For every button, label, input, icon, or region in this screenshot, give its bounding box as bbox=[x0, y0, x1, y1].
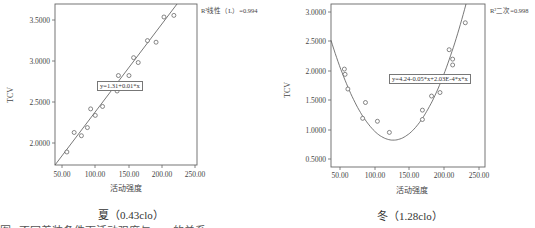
data-point bbox=[375, 119, 379, 123]
data-point bbox=[346, 87, 350, 91]
y-tick-label: 0.5000 bbox=[305, 155, 326, 164]
y-tick-label: 2.0000 bbox=[29, 139, 50, 148]
winter-equation-label: y=4.24-0.05*x+2.03E-4*x*x bbox=[389, 74, 471, 84]
winter-r2-label: R²二次=0.998 bbox=[490, 5, 529, 15]
data-point bbox=[132, 56, 136, 60]
x-tick-label: 250.00 bbox=[185, 170, 206, 179]
data-point bbox=[363, 101, 367, 105]
x-tick-label: 150.00 bbox=[119, 170, 140, 179]
y-tick-label: 3.5000 bbox=[29, 16, 50, 25]
x-tick-label: 100.00 bbox=[85, 170, 106, 179]
x-tick-label: 50.00 bbox=[332, 171, 349, 180]
data-point bbox=[72, 130, 76, 134]
summer-plot-svg: 3.5000 3.0000 2.5000 2.0000 50.00 100.00… bbox=[0, 0, 265, 228]
data-point bbox=[342, 67, 346, 71]
data-point bbox=[451, 57, 455, 61]
x-tick-label: 250.00 bbox=[469, 171, 490, 180]
data-point bbox=[172, 13, 176, 17]
summer-y-axis-title: TCV bbox=[6, 87, 15, 103]
data-point bbox=[101, 104, 105, 108]
data-point bbox=[438, 91, 442, 95]
summer-r2-label: R²线性（L）=0.994 bbox=[201, 5, 258, 15]
y-tick-label: 3.0000 bbox=[29, 57, 50, 66]
y-tick-label: 2.0000 bbox=[305, 67, 326, 76]
figure-caption: 图1 不同着装条件下活动强度与TCV的关系 bbox=[0, 222, 206, 228]
winter-plot-svg: 3.0000 2.5000 2.0000 1.5000 1.0000 0.500… bbox=[265, 0, 535, 228]
data-point bbox=[154, 40, 158, 44]
x-tick-label: 100.00 bbox=[365, 171, 386, 180]
data-point bbox=[447, 48, 451, 52]
data-point bbox=[162, 15, 166, 19]
x-tick-label: 200.00 bbox=[434, 171, 455, 180]
winter-x-axis-title: 活动强度 bbox=[396, 185, 428, 195]
data-point bbox=[116, 74, 120, 78]
data-point bbox=[136, 61, 140, 65]
y-tick-label: 1.0000 bbox=[305, 126, 326, 135]
data-point bbox=[79, 134, 83, 138]
summer-x-axis-title: 活动强度 bbox=[110, 183, 142, 193]
data-point bbox=[127, 74, 131, 78]
data-point bbox=[361, 116, 365, 120]
data-point bbox=[420, 108, 424, 112]
x-tick-label: 50.00 bbox=[54, 170, 71, 179]
winter-fit-curve bbox=[331, 4, 466, 140]
data-point bbox=[463, 21, 467, 25]
winter-y-axis-title: TCV bbox=[283, 82, 292, 98]
data-point bbox=[65, 150, 69, 154]
y-tick-label: 3.0000 bbox=[305, 8, 326, 17]
data-point bbox=[145, 39, 149, 43]
data-point bbox=[343, 72, 347, 76]
summer-caption: 夏（0.43clo） bbox=[98, 206, 164, 222]
summer-equation-label: y=1.31+0.01*x bbox=[97, 81, 143, 91]
x-tick-label: 150.00 bbox=[399, 171, 420, 180]
winter-y-axis: 3.0000 2.5000 2.0000 1.5000 1.0000 0.500… bbox=[305, 8, 331, 164]
winter-x-axis: 50.00 100.00 150.00 200.00 250.00 bbox=[332, 167, 490, 180]
data-point bbox=[93, 113, 97, 117]
summer-chart: 3.5000 3.0000 2.5000 2.0000 50.00 100.00… bbox=[0, 0, 265, 228]
data-point bbox=[85, 126, 89, 130]
data-point bbox=[430, 94, 434, 98]
y-tick-label: 2.5000 bbox=[305, 37, 326, 46]
y-tick-label: 1.5000 bbox=[305, 96, 326, 105]
x-tick-label: 200.00 bbox=[152, 170, 173, 179]
winter-caption: 冬（1.28clo） bbox=[377, 207, 443, 223]
y-tick-label: 2.5000 bbox=[29, 98, 50, 107]
data-point bbox=[420, 118, 424, 122]
data-point bbox=[451, 63, 455, 67]
winter-plot-frame bbox=[331, 4, 485, 167]
winter-chart: 3.0000 2.5000 2.0000 1.5000 1.0000 0.500… bbox=[265, 0, 535, 228]
data-point bbox=[387, 130, 391, 134]
summer-x-axis: 50.00 100.00 150.00 200.00 250.00 bbox=[54, 165, 206, 179]
summer-y-axis: 3.5000 3.0000 2.5000 2.0000 bbox=[29, 16, 55, 148]
data-point bbox=[89, 107, 93, 111]
